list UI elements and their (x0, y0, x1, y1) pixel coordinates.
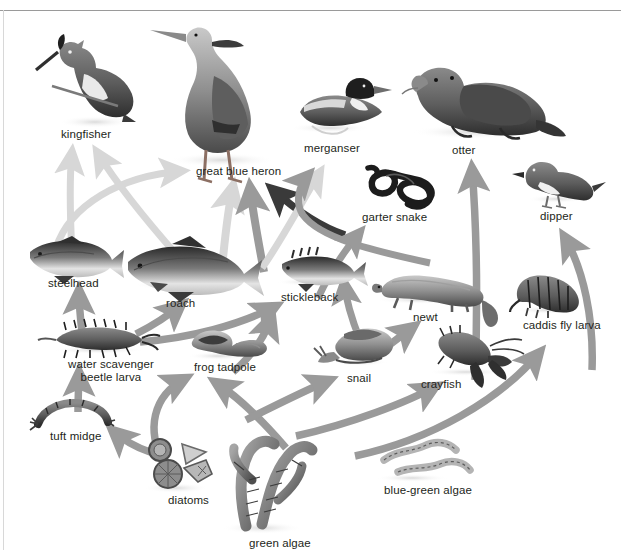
organism-art-roach (128, 236, 264, 302)
organism-art-garter-snake (368, 167, 432, 206)
organism-art-tuft-midge (30, 399, 115, 430)
label-green-algae: green algae (249, 537, 311, 550)
arrow-greenalgae-to-crayfish (296, 386, 436, 436)
organism-art-snail (314, 328, 393, 366)
arrow-roach-to-kingfisher (97, 152, 183, 262)
organism-art-frog-tadpole (188, 330, 267, 360)
label-roach: roach (166, 297, 195, 310)
organism-art-kingfisher (36, 34, 136, 128)
label-merganser: merganser (304, 142, 360, 155)
label-garter-snake: garter snake (362, 211, 427, 224)
arrow-roach-to-heron (223, 186, 233, 258)
label-frog-tadpole: frog tadpole (194, 361, 256, 374)
label-crayfish: crayfish (421, 378, 461, 391)
label-tuft-midge: tuft midge (50, 430, 102, 443)
label-kingfisher: kingfisher (61, 128, 111, 141)
label-water-scavenger-beetle-larva: water scavenger beetle larva (68, 358, 154, 384)
organism-art-diatoms (144, 439, 212, 493)
food-web-diagram: kingfisher great blue heron merganser ot… (0, 0, 621, 557)
label-otter: otter (452, 144, 476, 157)
organism-art-caddis-fly-larva (510, 276, 580, 318)
label-stickleback: stickleback (281, 291, 338, 304)
label-caddis-fly-larva: caddis fly larva (523, 319, 601, 332)
arrow-diatoms-to-tuftmidge (112, 430, 150, 452)
label-newt: newt (413, 311, 438, 324)
label-blue-green-algae: blue-green algae (384, 484, 472, 497)
organism-art-dipper (512, 162, 606, 208)
label-diatoms: diatoms (168, 494, 209, 507)
label-steelhead: steelhead (48, 277, 99, 290)
label-snail: snail (347, 372, 371, 385)
organism-art-green-algae (222, 441, 312, 534)
organism-art-otter (402, 68, 566, 139)
organism-art-great-blue-heron (150, 28, 274, 182)
organism-art-merganser (290, 78, 392, 134)
arrow-stickleback-to-heron (250, 187, 264, 272)
label-great-blue-heron: great blue heron (196, 165, 281, 178)
arrow-beetlelarva-to-steelhead (79, 290, 82, 332)
organism-art-stickleback (276, 247, 368, 292)
label-dipper: dipper (540, 210, 573, 223)
arrow-greenalgae-to-snail (246, 380, 330, 420)
